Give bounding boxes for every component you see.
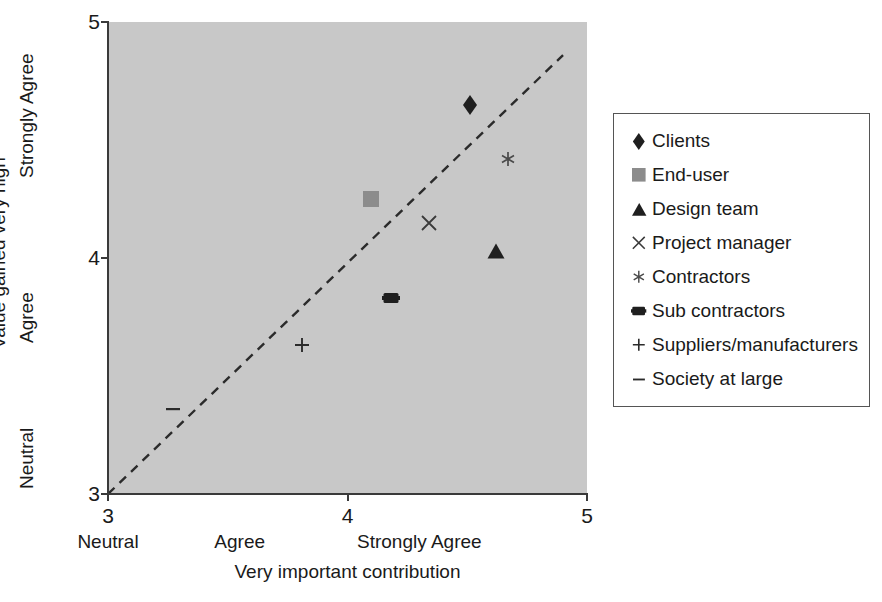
y-axis-tick [101, 257, 108, 259]
legend-item-label: Suppliers/manufacturers [652, 335, 858, 355]
y-axis-tick-label: 5 [68, 11, 100, 32]
dash-icon [626, 376, 652, 383]
legend: Clients End-user Design team Project man… [613, 113, 870, 407]
legend-item[interactable]: Clients [614, 124, 869, 158]
cross-x-icon [626, 236, 652, 250]
x-axis-tick [586, 494, 588, 501]
y-axis-tick-label: 4 [68, 247, 100, 268]
y-axis-tick-label: 3 [68, 483, 100, 504]
plus-icon [626, 338, 652, 352]
y-axis-category-label: Strongly Agree [17, 53, 36, 178]
square-icon [626, 168, 652, 182]
x-axis-category-label: Agree [140, 532, 340, 552]
legend-item[interactable]: Contractors [614, 260, 869, 294]
scatter-chart-figure: 345345NeutralAgreeStrongly AgreeNeutralA… [0, 0, 882, 602]
legend-item[interactable]: Design team [614, 192, 869, 226]
x-axis-tick-label: 4 [328, 505, 368, 527]
legend-item[interactable]: Project manager [614, 226, 869, 260]
x-axis-tick [107, 494, 109, 501]
x-axis-title: Very important contribution [108, 562, 587, 582]
asterisk-icon [626, 270, 652, 284]
legend-item[interactable]: End-user [614, 158, 869, 192]
y-axis-category-label: Neutral [17, 428, 36, 489]
legend-item-label: Design team [652, 199, 759, 219]
x-axis-tick-label: 5 [567, 505, 607, 527]
legend-item-label: Society at large [652, 369, 783, 389]
y-axis-title: Value gained very high [0, 157, 8, 349]
x-axis-category-label: Strongly Agree [319, 532, 519, 552]
diamond-icon [626, 133, 652, 150]
legend-item[interactable]: Sub contractors [614, 294, 869, 328]
legend-item-label: Clients [652, 131, 710, 151]
y-axis-category-label: Agree [17, 292, 36, 343]
legend-item-label: Project manager [652, 233, 791, 253]
x-axis-tick-label: 3 [88, 505, 128, 527]
legend-item[interactable]: Suppliers/manufacturers [614, 328, 869, 362]
hbar-icon [626, 305, 652, 317]
legend-item-label: End-user [652, 165, 729, 185]
plot-area [108, 22, 587, 494]
legend-item-label: Contractors [652, 267, 750, 287]
x-axis-tick [347, 494, 349, 501]
triangle-icon [626, 203, 652, 216]
legend-item-label: Sub contractors [652, 301, 785, 321]
legend-item[interactable]: Society at large [614, 362, 869, 396]
y-axis-tick [101, 21, 108, 23]
